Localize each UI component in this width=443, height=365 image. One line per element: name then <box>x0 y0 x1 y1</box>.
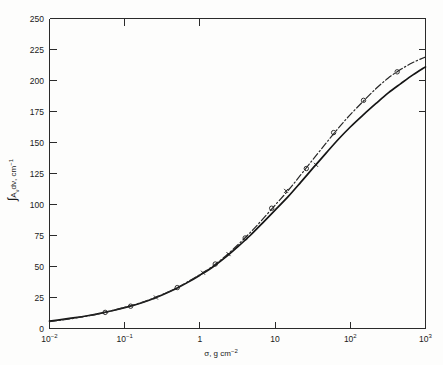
y-tick-label: 50 <box>35 262 45 272</box>
x-tick-label: 10 <box>41 334 51 344</box>
x-axis-title-text: σ, g cm <box>204 349 231 358</box>
y-axis-tick-labels: 250 225 200 175 150 125 100 75 50 25 0 <box>30 14 44 334</box>
x-tick-label: 10 <box>419 334 429 344</box>
x-tick-label-group: 10−2 <box>41 333 58 344</box>
series-dash-dot-curve <box>50 57 426 322</box>
y-tick-label: 0 <box>39 324 44 334</box>
y-axis-title: ∫Aνdν, cm−1 <box>5 158 20 202</box>
x-tick-label-group: 102 <box>344 333 357 344</box>
plot-frame <box>50 19 426 329</box>
x-axis-ticks <box>50 19 426 329</box>
x-tick-label-group: 10−1 <box>117 333 134 344</box>
y-tick-label: 100 <box>30 200 44 210</box>
x-tick-label-group: 1 <box>198 334 203 344</box>
x-axis-title-exponent: −2 <box>231 348 239 354</box>
x-tick-exponent: 3 <box>429 333 433 339</box>
x-tick-exponent: −1 <box>126 333 134 339</box>
x-tick-label: 10 <box>117 334 127 344</box>
y-axis-ticks <box>50 19 426 329</box>
chart-canvas: 250 225 200 175 150 125 100 75 50 25 0 <box>0 0 443 365</box>
series-solid-curve <box>50 67 426 321</box>
x-tick-label: 10 <box>344 334 354 344</box>
y-tick-label: 200 <box>30 76 44 86</box>
x-tick-label: 10 <box>270 334 280 344</box>
x-tick-label-group: 10 <box>270 334 280 344</box>
svg-text:∫Aνdν, cm−1: ∫Aνdν, cm−1 <box>5 158 20 202</box>
data-series-layer <box>50 57 426 322</box>
x-axis-title: σ, g cm−2 <box>204 348 238 359</box>
y-tick-label: 250 <box>30 14 44 24</box>
x-tick-exponent: −2 <box>51 333 59 339</box>
y-tick-label: 225 <box>30 45 44 55</box>
y-tick-label: 125 <box>30 169 44 179</box>
y-tick-label: 175 <box>30 107 44 117</box>
y-tick-label: 150 <box>30 138 44 148</box>
x-tick-label: 1 <box>198 334 203 344</box>
x-tick-label-group: 103 <box>419 333 432 344</box>
x-axis-tick-labels: 10−2 10−1 1 10 102 103 <box>41 333 432 344</box>
y-axis-title-exponent: −1 <box>8 158 14 166</box>
y-axis-title-mid: dν, cm <box>9 165 18 189</box>
y-tick-label: 75 <box>35 231 45 241</box>
y-tick-label: 25 <box>35 293 45 303</box>
x-tick-exponent: 2 <box>353 333 357 339</box>
figure-container: 250 225 200 175 150 125 100 75 50 25 0 <box>0 0 443 365</box>
